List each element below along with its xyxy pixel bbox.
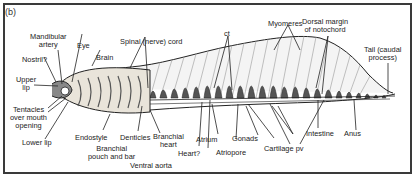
label-atriopore: Atriopore bbox=[216, 149, 246, 157]
label-ventral-aorta: Ventral aorta bbox=[130, 162, 172, 170]
label-gonads: Gonads bbox=[232, 135, 258, 143]
label-tentacles: Tentaclesover mouthopening bbox=[10, 106, 47, 130]
lamprey-anatomy-illustration bbox=[0, 0, 417, 180]
label-dorsal-margin-notochord: Dorsal marginof notochord bbox=[302, 18, 348, 34]
label-anus: Anus bbox=[344, 130, 361, 138]
label-tail: Tail (caudalprocess) bbox=[364, 46, 401, 62]
label-ct: ct bbox=[224, 30, 230, 38]
label-heart: Heart? bbox=[178, 150, 200, 158]
label-atrium: Atrium bbox=[196, 136, 217, 144]
label-spinal-cord: Spinal (nerve) cord bbox=[120, 38, 182, 46]
label-cartilage-pv: Cartilage pv bbox=[264, 145, 303, 153]
label-upper-lip: Upperlip bbox=[16, 76, 36, 92]
label-endostyle: Endostyle bbox=[75, 134, 107, 142]
label-nostril: Nostril? bbox=[22, 56, 47, 64]
label-branchial-pouch: Branchialpouch and bar bbox=[88, 145, 135, 161]
label-mandibular-artery: Mandibularartery bbox=[30, 33, 67, 49]
label-lower-lip: Lower lip bbox=[22, 139, 52, 147]
label-brain: Brain bbox=[96, 54, 113, 62]
label-intestine: Intestine bbox=[306, 130, 334, 138]
label-denticles: Denticles bbox=[120, 134, 150, 142]
label-eye: Eye bbox=[77, 42, 90, 50]
label-myomeres: Myomeres bbox=[268, 20, 303, 28]
label-branchial-heart: Branchialheart bbox=[153, 133, 184, 149]
